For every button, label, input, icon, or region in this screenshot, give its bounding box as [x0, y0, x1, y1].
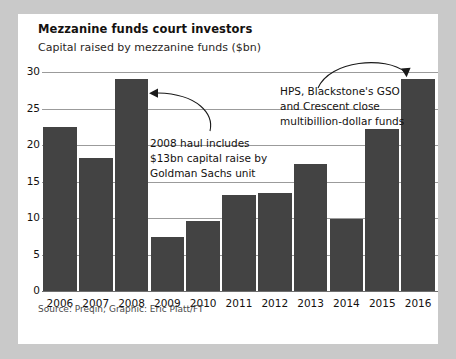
y-axis-tick-label: 15 — [18, 175, 40, 187]
bar — [330, 219, 364, 291]
chart-card: Mezzanine funds court investors Capital … — [18, 14, 438, 344]
bar — [365, 129, 399, 291]
bar — [186, 221, 220, 291]
bar — [151, 237, 185, 291]
bar — [258, 193, 292, 291]
bar — [401, 79, 435, 291]
y-axis-tick-label: 10 — [18, 211, 40, 223]
bar — [294, 164, 328, 291]
annotation-2016: HPS, Blackstone's GSOand Crescent closem… — [280, 84, 404, 129]
bar — [222, 195, 256, 291]
x-axis-tick-label: 2015 — [364, 297, 400, 309]
y-axis-tick-label: 5 — [18, 248, 40, 260]
x-axis-tick-label: 2013 — [293, 297, 329, 309]
annotation-2008: 2008 haul includes$13bn capital raise by… — [150, 136, 267, 181]
bar — [115, 79, 149, 291]
annotation-line: multibillion-dollar funds — [280, 114, 404, 129]
y-axis-tick-label: 25 — [18, 102, 40, 114]
bar — [79, 158, 113, 291]
bar — [43, 127, 77, 291]
x-axis-tick-label: 2016 — [400, 297, 436, 309]
annotation-line: HPS, Blackstone's GSO — [280, 84, 404, 99]
x-axis-tick-label: 2012 — [257, 297, 293, 309]
x-axis-tick-label: 2011 — [221, 297, 257, 309]
y-axis-tick-label: 0 — [18, 284, 40, 296]
annotation-line: $13bn capital raise by — [150, 151, 267, 166]
annotation-line: Goldman Sachs unit — [150, 166, 267, 181]
annotation-line: 2008 haul includes — [150, 136, 267, 151]
y-axis-tick-label: 30 — [18, 65, 40, 77]
y-axis-tick-label: 20 — [18, 138, 40, 150]
annotation-line: and Crescent close — [280, 99, 404, 114]
x-axis-tick-label: 2014 — [329, 297, 365, 309]
source-credit: Source: Preqin; Graphic: Eric Platt/FT — [38, 304, 204, 314]
